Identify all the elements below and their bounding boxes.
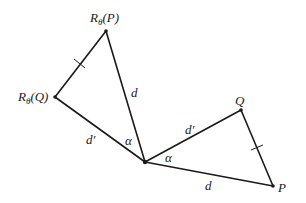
label-dprime-right: d′ [185, 122, 195, 137]
label-RQ-arg: (Q) [30, 89, 48, 104]
edge-center-to-RQ [55, 97, 145, 162]
label-dprime-left: d′ [86, 132, 96, 147]
point-Q [239, 108, 243, 112]
label-RQ-base: R [17, 89, 26, 104]
label-alpha-left: α [125, 133, 133, 148]
point-P [271, 184, 275, 188]
label-RP-base: R [89, 10, 98, 25]
label-RQ: Rθ(Q) [17, 89, 48, 106]
point-RQ [53, 95, 57, 99]
label-RP-arg: (P) [102, 10, 119, 25]
label-P: P [277, 180, 286, 195]
label-d-upper: d [131, 85, 138, 100]
label-RP: Rθ(P) [89, 10, 119, 27]
rotation-diagram: P Q Rθ(P) Rθ(Q) d d d′ d′ α α [0, 0, 306, 203]
label-alpha-right: α [165, 150, 173, 165]
point-center [143, 160, 147, 164]
label-d-lower: d [205, 178, 212, 193]
point-RP [104, 29, 108, 33]
label-Q: Q [235, 93, 245, 108]
